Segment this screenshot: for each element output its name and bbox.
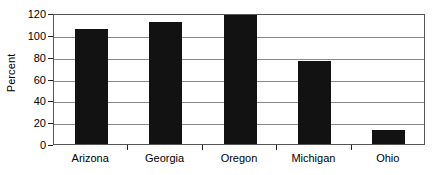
y-axis-tick-label: 20 [18, 118, 46, 129]
bar [224, 15, 257, 144]
y-axis-tick-labels: 020406080100120 [18, 14, 46, 145]
y-axis-tick-mark [48, 80, 53, 81]
x-axis-tick-label: Georgia [145, 151, 184, 165]
y-axis-tick-mark [48, 101, 53, 102]
y-axis-title-text: Percent [5, 53, 17, 92]
y-axis-tick-label: 100 [18, 30, 46, 41]
y-axis-tick-mark [48, 14, 53, 15]
y-axis-tick-mark [48, 36, 53, 37]
y-axis-tick-label: 80 [18, 52, 46, 63]
bar-chart-figure: Percent 020406080100120 ArizonaGeorgiaOr… [0, 0, 443, 175]
y-axis-tick-label: 0 [18, 140, 46, 151]
bar [372, 130, 405, 144]
y-axis-tick-label: 40 [18, 96, 46, 107]
x-axis-tick-mark [202, 145, 203, 150]
bar [298, 61, 331, 144]
y-axis-tick-label: 60 [18, 74, 46, 85]
x-axis-tick-mark [276, 145, 277, 150]
x-axis-tick-mark [351, 145, 352, 150]
y-axis-tick-mark [48, 123, 53, 124]
bar [149, 22, 182, 144]
x-axis-tick-label: Michigan [291, 151, 335, 165]
y-axis-tick-mark [48, 58, 53, 59]
x-axis-tick-label: Ohio [376, 151, 399, 165]
x-axis-tick-mark [127, 145, 128, 150]
plot-area [53, 14, 425, 145]
y-axis-tick-mark [48, 145, 53, 146]
bar [75, 29, 108, 144]
bars-group [54, 15, 424, 144]
x-axis-tick-label: Oregon [221, 151, 258, 165]
x-axis-tick-labels: ArizonaGeorgiaOregonMichiganOhio [53, 151, 425, 169]
x-axis-tick-label: Arizona [72, 151, 109, 165]
y-axis-tick-label: 120 [18, 9, 46, 20]
